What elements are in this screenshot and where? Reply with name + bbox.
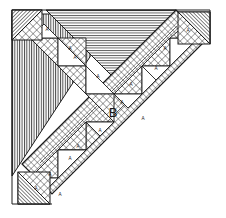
sawtooth-label: A (58, 192, 62, 197)
figure-canvas: B A A A A A A A A A A A A A A A A (0, 0, 226, 218)
corner-square-top-left (12, 10, 42, 40)
geometric-diagram: B A A A A A A A A A A A A A A A A (0, 0, 226, 218)
corner-square-bottom-left (18, 172, 50, 204)
sawtooth-label: A (141, 116, 145, 121)
corner-square-top-right (178, 12, 210, 44)
